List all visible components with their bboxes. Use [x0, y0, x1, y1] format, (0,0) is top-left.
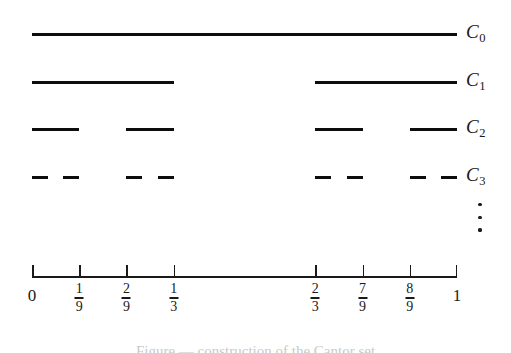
fraction-denominator: 3 [311, 300, 320, 314]
fraction-denominator: 3 [169, 300, 178, 314]
axis-tick-label: 79 [358, 282, 367, 314]
fraction-numerator: 1 [75, 282, 84, 296]
axis-tick-label: 0 [28, 287, 37, 304]
fraction-numerator: 2 [122, 282, 131, 296]
fraction-denominator: 9 [75, 300, 84, 314]
cantor-set-figure: C0C1C2C3 01929132379891 Figure — constru… [0, 0, 511, 353]
axis-tick [315, 265, 317, 277]
fraction-denominator: 9 [122, 300, 131, 314]
axis-tick [363, 265, 365, 277]
axis-tick [456, 265, 458, 278]
fraction-numerator: 1 [169, 282, 178, 296]
fraction-label: 89 [405, 282, 414, 314]
fraction-label: 23 [311, 282, 320, 314]
figure-caption: Figure — construction of the Cantor set [0, 344, 511, 353]
axis-tick-label: 13 [169, 282, 178, 314]
axis-tick [79, 265, 81, 277]
axis-tick [126, 265, 128, 277]
axis-tick [410, 265, 412, 277]
fraction-label: 29 [122, 282, 131, 314]
fraction-denominator: 9 [405, 300, 414, 314]
fraction-numerator: 2 [311, 282, 320, 296]
fraction-label: 79 [358, 282, 367, 314]
fraction-denominator: 9 [358, 300, 367, 314]
axis-baseline [32, 276, 457, 278]
axis-tick-label: 1 [453, 287, 462, 304]
number-line-axis: 01929132379891 [0, 0, 511, 353]
fraction-numerator: 7 [358, 282, 367, 296]
fraction-label: 13 [169, 282, 178, 314]
axis-tick [174, 265, 176, 277]
axis-tick-label: 23 [311, 282, 320, 314]
axis-tick-label: 29 [122, 282, 131, 314]
fraction-label: 19 [75, 282, 84, 314]
fraction-numerator: 8 [405, 282, 414, 296]
axis-tick-label: 89 [405, 282, 414, 314]
axis-tick-label: 19 [75, 282, 84, 314]
axis-tick [32, 265, 34, 278]
